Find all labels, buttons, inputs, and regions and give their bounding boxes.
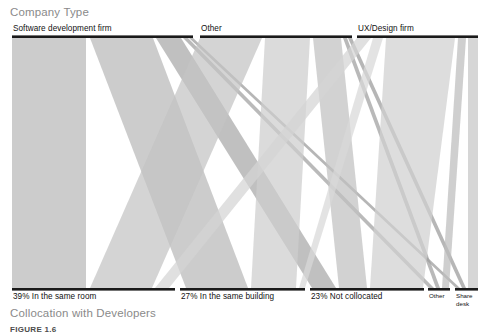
top-axis-segment-bar[interactable] xyxy=(12,35,193,38)
top-axis-segment-bar[interactable] xyxy=(357,35,478,38)
figure-caption: FIGURE 1.6 xyxy=(10,325,57,334)
bottom-axis-segment-bar[interactable] xyxy=(428,288,450,291)
sankey-ribbon xyxy=(370,38,455,288)
bottom-axis-title: Collocation with Developers xyxy=(10,307,156,319)
bottom-axis-segment-label-0[interactable]: 39% In the same room xyxy=(13,292,96,301)
sankey-ribbon xyxy=(12,38,86,288)
bottom-axis-segment-label-2[interactable]: 23% Not collocated xyxy=(311,292,382,301)
sankey-ribbon xyxy=(468,38,478,288)
bottom-axis-segment-bar[interactable] xyxy=(180,288,305,291)
bottom-axis-segment-bar[interactable] xyxy=(12,288,175,291)
bottom-axis-bars xyxy=(12,288,478,291)
top-axis-bars xyxy=(12,35,478,38)
ribbon-group xyxy=(12,38,478,288)
bottom-axis-segment-bar[interactable] xyxy=(310,288,424,291)
bottom-axis-segment-label-3[interactable]: Other xyxy=(429,292,444,299)
bottom-axis-segment-bar[interactable] xyxy=(455,288,478,291)
bottom-axis-segment-label-4[interactable]: Share desk xyxy=(456,292,478,307)
top-axis-segment-bar[interactable] xyxy=(200,35,352,38)
bottom-axis-segment-label-1[interactable]: 27% In the same building xyxy=(181,292,274,301)
